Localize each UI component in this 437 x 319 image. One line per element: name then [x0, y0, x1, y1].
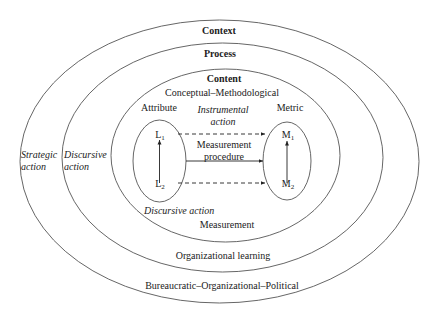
context-label: Context	[202, 25, 236, 36]
attribute-label: Attribute	[141, 102, 177, 113]
strategic-action-line1: Strategic	[21, 149, 57, 160]
strategic-action-line2: action	[21, 161, 46, 172]
discursive-action-outer-line2: action	[64, 161, 89, 172]
process-label: Process	[204, 48, 236, 59]
instrumental-action-line2: action	[211, 116, 236, 127]
l1-label: L1	[155, 129, 165, 144]
content-label: Content	[207, 73, 241, 84]
discursive-action-inner-label: Discursive action	[144, 205, 214, 216]
discursive-action-outer-line1: Discursive	[64, 149, 107, 160]
metric-label: Metric	[277, 102, 304, 113]
l2-label: L2	[155, 178, 165, 193]
instrumental-action-line1: Instrumental	[197, 104, 248, 115]
organizational-learning-label: Organizational learning	[176, 250, 271, 261]
m1-label: M1	[282, 129, 294, 144]
m2-label: M2	[282, 178, 294, 193]
measurement-procedure-line1: Measurement	[197, 139, 251, 150]
measurement-procedure-line2: procedure	[204, 151, 244, 162]
conceptual-methodological-label: Conceptual–Methodological	[165, 87, 279, 98]
measurement-label: Measurement	[200, 219, 254, 230]
bureaucratic-organizational-political-label: Bureaucratic–Organizational–Political	[145, 280, 299, 291]
